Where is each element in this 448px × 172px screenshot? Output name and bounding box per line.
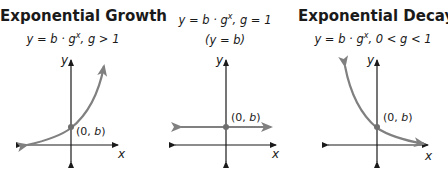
growth-point-label: (0, b) (76, 125, 106, 138)
decay-intercept-point (374, 124, 380, 130)
constant-graph: y x (0, b) (175, 53, 280, 162)
growth-x-label: x (117, 147, 126, 161)
constant-intercept-point (223, 124, 229, 130)
decay-y-label: y (366, 53, 375, 67)
constant-y-label: y (215, 53, 224, 67)
growth-graph: y x (0, b) (22, 53, 126, 162)
decay-point-label: (0, b) (383, 111, 413, 124)
growth-y-label: y (60, 53, 69, 67)
constant-x-label: x (271, 147, 280, 161)
graphs-canvas: y x (0, b) y x (0, b) y x (0, b) (0, 0, 448, 172)
constant-point-label: (0, b) (231, 111, 261, 124)
growth-intercept-point (68, 124, 74, 130)
decay-curve (345, 66, 424, 144)
decay-graph: y x (0, b) (328, 53, 433, 163)
decay-x-label: x (424, 149, 433, 163)
